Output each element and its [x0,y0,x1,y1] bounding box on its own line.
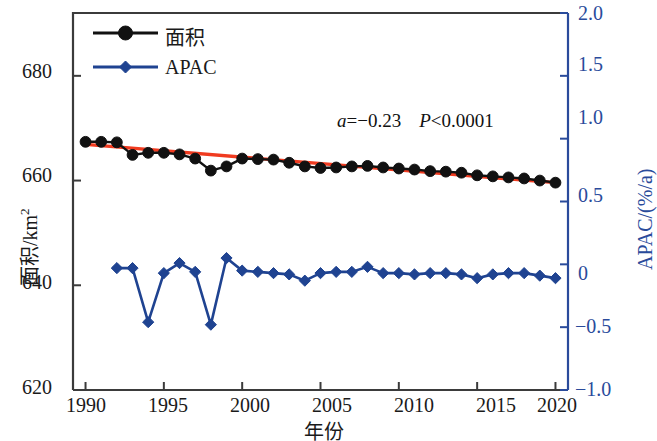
data-point [237,153,248,164]
data-point [158,147,169,158]
x-axis-title: 年份 [304,416,344,441]
data-point [331,162,342,173]
y2-axis-tick-label-neg1p0: −1.0 [575,378,611,401]
legend-label-area: 面积 [165,22,205,51]
data-point [315,268,326,279]
y-axis-title-superscript: 2 [17,208,32,215]
data-point [519,173,530,184]
data-point [503,268,514,279]
x-axis-tick-label-2010: 2010 [394,394,434,417]
series-area [80,136,561,188]
y2-axis-tick-label-1p5: 1.5 [578,53,603,76]
y-axis-title-text: 面积/km [19,215,41,286]
data-point [456,167,467,178]
data-point [174,149,185,160]
data-point [440,268,451,279]
data-point [346,161,357,172]
data-point [190,266,201,277]
data-point [205,165,216,176]
data-point [393,268,404,279]
data-point [534,175,545,186]
data-point [205,319,216,330]
data-point [534,270,545,281]
y2-axis-tick-label-2p0: 2.0 [578,2,603,25]
slope-symbol: a [337,110,347,131]
data-point [362,160,373,171]
data-point [80,136,91,147]
x-axis-tick-label-2020: 2020 [537,394,577,417]
legend-label-apac: APAC [165,56,217,79]
data-point [378,268,389,279]
data-point [425,268,436,279]
data-point [111,263,122,274]
data-point [143,147,154,158]
data-point [519,268,530,279]
data-point [284,269,295,280]
data-point [425,166,436,177]
data-point [299,275,310,286]
x-axis-tick-label-1995: 1995 [148,394,188,417]
data-point [143,317,154,328]
x-axis-tick-label-1990: 1990 [66,394,106,417]
data-point [440,166,451,177]
data-point [409,269,420,280]
data-point [393,163,404,174]
plot-frame [73,13,568,390]
data-point [378,162,389,173]
data-point [503,172,514,183]
y2-axis-tick-label-0p5: 0.5 [578,184,603,207]
y-axis-tick-label-660: 660 [22,164,52,187]
y2-axis-tick-label-neg0p5: −0.5 [575,315,611,338]
y-axis-title: 面积/km2 [14,208,43,286]
data-point [550,177,561,188]
y-axis-tick-label-680: 680 [22,60,52,83]
data-point [299,161,310,172]
data-point [96,136,107,147]
series-apac [111,252,561,330]
data-point [252,266,263,277]
data-point [472,170,483,181]
data-point [346,266,357,277]
data-point [487,171,498,182]
pvalue-value: <0.0001 [431,110,494,131]
data-point [221,161,232,172]
data-point [111,137,122,148]
data-point [362,261,373,272]
data-point [284,157,295,168]
y2-axis-tick-label-1p0: 1.0 [578,106,603,129]
data-point [268,268,279,279]
data-point [550,273,561,284]
legend-marker [119,26,133,40]
pvalue-symbol: P [419,110,431,131]
data-point [409,164,420,175]
data-point [252,154,263,165]
data-point [190,153,201,164]
data-point [127,263,138,274]
trend-annotation: a=−0.23P<0.0001 [337,110,494,132]
data-point [268,154,279,165]
y2-axis-tick-label-0: 0 [578,262,588,285]
y2-axis-title: APAC/(%/a) [634,169,657,270]
x-axis-tick-label-2000: 2000 [230,394,270,417]
slope-value: =−0.23 [347,110,402,131]
x-axis-tick-label-2015: 2015 [476,394,516,417]
data-point [315,163,326,174]
y-axis-tick-label-620: 620 [22,376,52,399]
legend [93,26,158,73]
data-point [487,269,498,280]
data-point [472,273,483,284]
data-point [331,266,342,277]
data-point [456,269,467,280]
legend-marker [120,61,132,73]
axis-ticks [73,13,568,390]
x-axis-tick-label-2005: 2005 [312,394,352,417]
data-point [127,149,138,160]
